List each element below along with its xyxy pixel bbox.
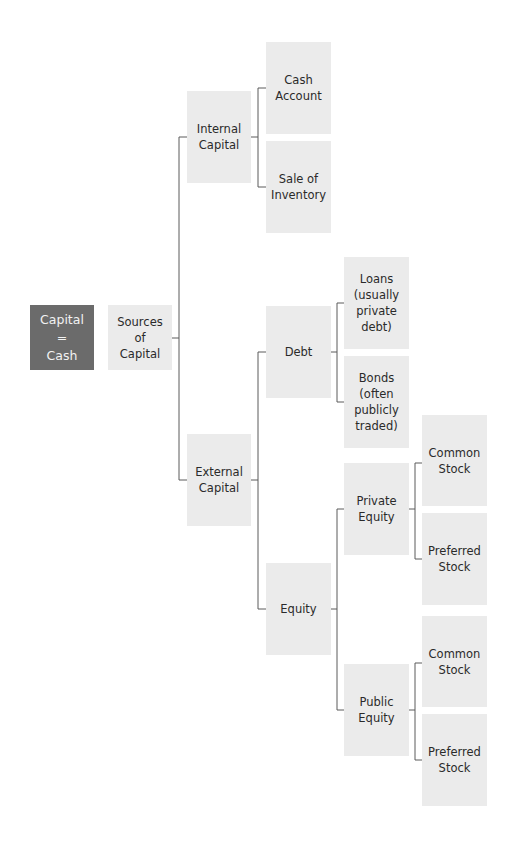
node-capital-equals-cash: Capital = Cash [30, 305, 94, 370]
node-label: Cash Account [275, 72, 321, 104]
node-sale-of-inventory: Sale of Inventory [266, 141, 331, 233]
node-label: Public Equity [358, 694, 394, 726]
node-label: External Capital [195, 464, 243, 496]
node-private-equity: Private Equity [344, 463, 409, 555]
node-label: Bonds (often publicly traded) [354, 370, 399, 434]
node-label: Preferred Stock [428, 543, 481, 575]
node-label: Sale of Inventory [271, 171, 326, 203]
node-label: Private Equity [356, 493, 396, 525]
node-cash-account: Cash Account [266, 42, 331, 134]
node-public-preferred-stock: Preferred Stock [422, 714, 487, 806]
node-bonds: Bonds (often publicly traded) [344, 356, 409, 448]
node-sources-of-capital: Sources of Capital [108, 305, 172, 370]
node-label: Loans (usually private debt) [354, 271, 399, 335]
node-loans: Loans (usually private debt) [344, 257, 409, 349]
node-private-common-stock: Common Stock [422, 415, 487, 506]
node-label: Sources of Capital [110, 314, 170, 362]
node-external-capital: External Capital [187, 434, 251, 526]
node-label: Common Stock [429, 646, 481, 678]
node-label: Common Stock [429, 445, 481, 477]
node-debt: Debt [266, 306, 331, 398]
node-label: Equity [280, 601, 316, 617]
node-public-equity: Public Equity [344, 664, 409, 756]
node-label: Preferred Stock [428, 744, 481, 776]
node-label: Internal Capital [197, 121, 241, 153]
node-internal-capital: Internal Capital [187, 91, 251, 183]
node-public-common-stock: Common Stock [422, 616, 487, 707]
node-private-preferred-stock: Preferred Stock [422, 513, 487, 605]
node-label: Capital = Cash [40, 311, 84, 365]
node-equity: Equity [266, 563, 331, 655]
node-label: Debt [285, 344, 313, 360]
